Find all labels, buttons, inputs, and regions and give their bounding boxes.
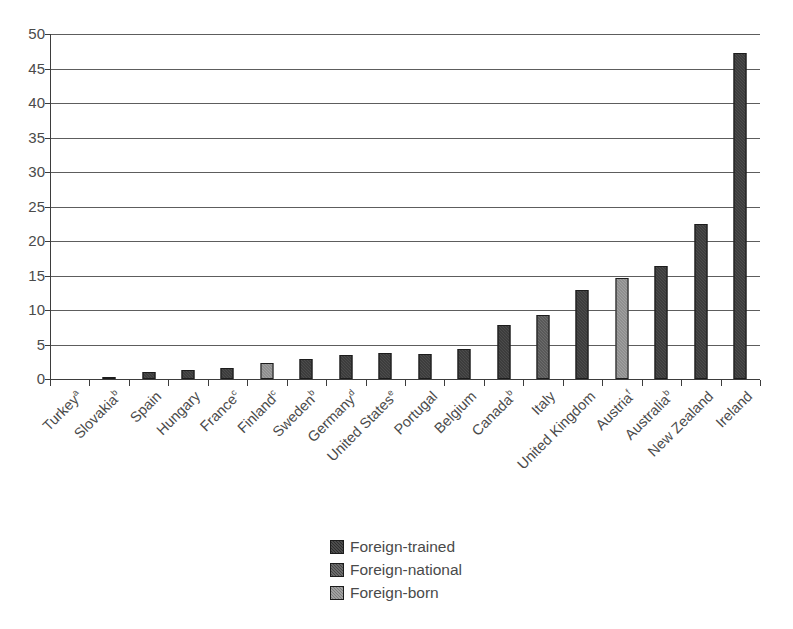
- y-tick-mark: [45, 207, 51, 208]
- legend-label: Foreign-trained: [350, 538, 455, 555]
- y-tick-label: 15: [7, 268, 45, 283]
- legend-item: Foreign-national: [330, 558, 462, 581]
- legend-label: Foreign-born: [350, 584, 439, 601]
- footnote-marker: b: [109, 387, 120, 398]
- footnote-marker: a: [70, 387, 81, 398]
- bar-slot: [247, 34, 286, 379]
- bar-slot: [129, 34, 168, 379]
- footnote-marker: c: [228, 387, 238, 397]
- bar-chart-figure: 50454035302520151050 TurkeyaSlovakiabSpa…: [0, 0, 793, 629]
- footnote-marker: b: [661, 387, 672, 398]
- footnote-marker: d: [346, 387, 357, 398]
- bar-slot: [208, 34, 247, 379]
- bar-slot: [89, 34, 128, 379]
- bar-slot: [168, 34, 207, 379]
- y-tick-label: 5: [7, 337, 45, 352]
- bar-slot: [563, 34, 602, 379]
- y-tick-label: 45: [7, 61, 45, 76]
- bar-slot: [484, 34, 523, 379]
- y-tick-mark: [45, 172, 51, 173]
- x-tick-mark: [50, 380, 51, 386]
- legend-swatch: [330, 540, 344, 554]
- bar-slot: [681, 34, 720, 379]
- y-tick-label: 25: [7, 199, 45, 214]
- bar-slot: [602, 34, 641, 379]
- legend-label: Foreign-national: [350, 561, 462, 578]
- bar: [734, 53, 747, 379]
- bar-slot: [287, 34, 326, 379]
- legend-item: Foreign-born: [330, 581, 462, 604]
- y-tick-mark: [45, 103, 51, 104]
- bar-slot: [366, 34, 405, 379]
- y-tick-mark: [45, 241, 51, 242]
- bar: [576, 290, 589, 379]
- y-tick-mark: [45, 276, 51, 277]
- bar-slot: [721, 34, 760, 379]
- bar-slot: [326, 34, 365, 379]
- footnote-marker: b: [503, 387, 514, 398]
- legend-swatch: [330, 563, 344, 577]
- y-tick-mark: [45, 69, 51, 70]
- y-tick-mark: [45, 34, 51, 35]
- y-tick-mark: [45, 310, 51, 311]
- footnote-marker: f: [624, 387, 633, 396]
- legend-item: Foreign-trained: [330, 535, 462, 558]
- footnote-marker: e: [385, 387, 396, 398]
- legend-swatch: [330, 586, 344, 600]
- bar-slot: [405, 34, 444, 379]
- y-tick-label: 10: [7, 302, 45, 317]
- y-tick-label: 0: [7, 371, 45, 386]
- footnote-marker: c: [267, 387, 277, 397]
- y-tick-mark: [45, 345, 51, 346]
- y-tick-label: 40: [7, 95, 45, 110]
- y-tick-label: 35: [7, 130, 45, 145]
- bar-slot: [523, 34, 562, 379]
- footnote-marker: b: [306, 387, 317, 398]
- chart-legend: Foreign-trainedForeign-nationalForeign-b…: [330, 535, 462, 604]
- y-tick-label: 30: [7, 164, 45, 179]
- y-tick-mark: [45, 138, 51, 139]
- bar-slot: [50, 34, 89, 379]
- y-tick-label: 20: [7, 233, 45, 248]
- y-tick-label: 50: [7, 26, 45, 41]
